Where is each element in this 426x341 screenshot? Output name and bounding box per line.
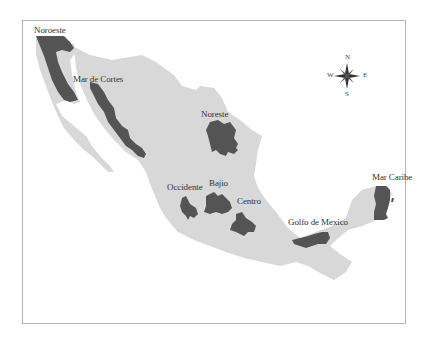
- label-noreste: Noreste: [201, 110, 228, 119]
- compass-east: E: [363, 72, 367, 79]
- mexico-map: [0, 0, 426, 341]
- label-centro: Centro: [237, 197, 261, 206]
- compass-west: W: [327, 72, 334, 79]
- label-golfo-de-mexico: Golfo de Mexico: [288, 218, 348, 227]
- compass-south: S: [345, 91, 349, 98]
- label-mar-caribe: Mar Caribe: [372, 173, 412, 182]
- compass-rose: N S W E: [324, 54, 374, 98]
- label-noroeste: Noroeste: [34, 26, 66, 35]
- compass-north: N: [345, 54, 350, 61]
- region-mar-caribe: [374, 186, 390, 220]
- label-bajio: Bajio: [209, 179, 228, 188]
- cozumel-island: [391, 198, 394, 202]
- label-mar-de-cortes: Mar de Cortes: [73, 75, 123, 84]
- label-occidente: Occidente: [167, 183, 203, 192]
